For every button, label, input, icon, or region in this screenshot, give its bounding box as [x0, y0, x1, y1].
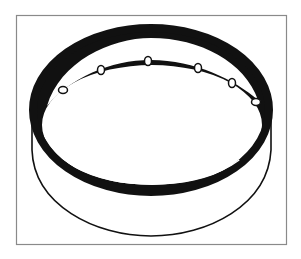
ring-illustration: [0, 0, 301, 259]
hole-icon: [195, 64, 202, 73]
hole-icon: [145, 57, 152, 66]
cylinder-wall-outline: [32, 112, 271, 236]
hole-icon: [229, 79, 236, 88]
hole-icon: [252, 99, 261, 106]
hole-icon: [59, 87, 68, 94]
hole-icon: [98, 66, 105, 75]
flange-highlight: [45, 70, 259, 184]
